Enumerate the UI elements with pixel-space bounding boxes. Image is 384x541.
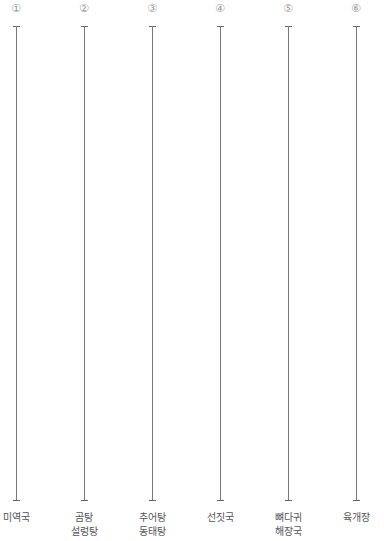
vertical-line (16, 26, 17, 500)
line-bottom-cap (149, 500, 156, 501)
line-bottom-cap (217, 500, 224, 501)
column-6: ⑥ 육개장 (326, 0, 384, 541)
vertical-line (84, 26, 85, 500)
column-label: 곰탕 설렁탕 (54, 511, 114, 539)
line-bottom-cap (285, 500, 292, 501)
vertical-line (152, 26, 153, 500)
column-label: 미역국 (0, 511, 46, 525)
column-number: ⑤ (258, 2, 318, 16)
column-label: 육개장 (326, 511, 384, 525)
vertical-line (356, 26, 357, 500)
line-bottom-cap (353, 500, 360, 501)
column-number: ④ (190, 2, 250, 16)
column-label: 추어탕 동태탕 (122, 511, 182, 539)
line-bottom-cap (13, 500, 20, 501)
vertical-line (288, 26, 289, 500)
column-4: ④ 선짓국 (190, 0, 250, 541)
column-label: 뼈다귀 해장국 (258, 511, 318, 539)
column-number: ② (54, 2, 114, 16)
column-2: ② 곰탕 설렁탕 (54, 0, 114, 541)
column-label: 선짓국 (190, 511, 250, 525)
column-5: ⑤ 뼈다귀 해장국 (258, 0, 318, 541)
column-3: ③ 추어탕 동태탕 (122, 0, 182, 541)
column-number: ③ (122, 2, 182, 16)
column-number: ① (0, 2, 46, 16)
line-bottom-cap (81, 500, 88, 501)
column-number: ⑥ (326, 2, 384, 16)
column-1: ① 미역국 (0, 0, 46, 541)
vertical-line (220, 26, 221, 500)
